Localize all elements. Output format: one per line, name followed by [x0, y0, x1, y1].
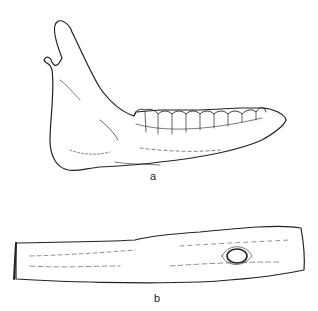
- illustration-canvas: [0, 0, 318, 311]
- figure-label-a: a: [150, 170, 156, 182]
- figure-label-b: b: [154, 292, 160, 304]
- perforation-hole: [227, 249, 247, 263]
- bone-tube-drawing: [14, 226, 304, 282]
- mandible-drawing: [44, 21, 286, 171]
